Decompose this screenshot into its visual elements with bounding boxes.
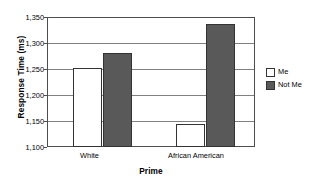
legend-label-not-me: Not Me [278, 81, 302, 89]
bar-african-american-not-me [206, 24, 235, 147]
legend-swatch-not-me-icon [266, 81, 275, 90]
legend-swatch-me-icon [266, 68, 275, 77]
y-tick-label-1350: 1,350 [4, 14, 44, 21]
legend-label-me: Me [278, 68, 288, 76]
bar-african-american-me [176, 124, 205, 147]
bar-white-not-me [103, 53, 132, 147]
x-tick-label-white: White [62, 152, 117, 160]
y-tick-label-1300: 1,300 [4, 40, 44, 47]
y-tick-label-1250: 1,250 [4, 66, 44, 73]
y-tick-label-1100: 1,100 [4, 144, 44, 151]
plot-area [47, 17, 255, 147]
bar-white-me [73, 68, 102, 147]
x-axis-title: Prime [47, 166, 255, 176]
x-tick-label-african-american: African American [164, 152, 228, 160]
legend-item-not-me: Not Me [266, 79, 312, 91]
y-tick-label-1150: 1,150 [4, 118, 44, 125]
bar-chart-figure: Response Time (ms) 1,350 1,300 1,250 1,2… [0, 0, 313, 186]
y-tick-label-1200: 1,200 [4, 92, 44, 99]
legend-item-me: Me [266, 66, 312, 78]
legend: Me Not Me [266, 66, 312, 92]
y-tick-mark-1100 [44, 147, 47, 148]
